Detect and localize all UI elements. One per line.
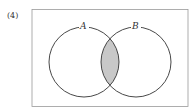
venn-diagram: A B bbox=[0, 0, 192, 108]
set-a-label: A bbox=[79, 21, 87, 31]
set-b-label: B bbox=[131, 21, 139, 31]
